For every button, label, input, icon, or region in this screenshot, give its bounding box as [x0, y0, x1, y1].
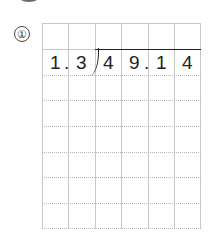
previous-problem-badge-partial	[18, 0, 40, 2]
dividend-digit: 4	[174, 51, 201, 75]
grid-line	[42, 152, 201, 153]
grid-line	[42, 23, 201, 24]
grid-line	[42, 177, 201, 178]
problem-number-badge: ①	[14, 26, 30, 42]
divisor-digit: 3	[68, 51, 95, 75]
grid-line	[42, 100, 201, 101]
dividend-digit: 1	[148, 51, 175, 75]
division-bar	[95, 49, 201, 50]
dividend-digit: 4	[95, 51, 122, 75]
grid-line	[42, 126, 201, 127]
grid-line	[42, 75, 201, 76]
grid-line	[42, 228, 201, 229]
grid-line	[42, 203, 201, 204]
